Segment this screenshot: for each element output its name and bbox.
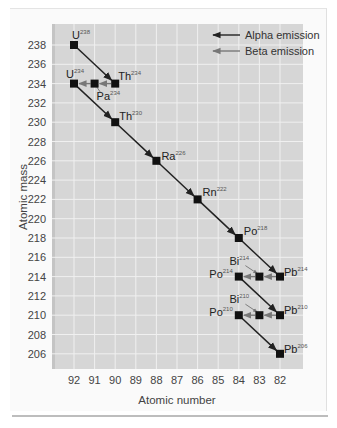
- y-tick-label: 226: [28, 155, 46, 167]
- y-tick-label: 210: [28, 309, 46, 321]
- legend-beta-label: Beta emission: [245, 45, 314, 57]
- x-axis-label: Atomic number: [138, 394, 216, 406]
- y-tick-label: 218: [28, 232, 46, 244]
- nuclide-label: Pb206: [284, 343, 308, 355]
- y-tick-label: 236: [28, 58, 46, 70]
- nuclide-marker: [276, 311, 284, 319]
- y-tick-label: 228: [28, 136, 46, 148]
- y-tick-label: 232: [28, 97, 46, 109]
- nuclide-marker: [91, 80, 99, 88]
- y-axis-ticks: 2382362342322302282262242222202182162142…: [28, 39, 46, 360]
- y-tick-label: 224: [28, 174, 46, 186]
- y-tick-label: 230: [28, 116, 46, 128]
- nuclide-label: Pb210: [284, 304, 308, 316]
- nuclide-marker: [255, 311, 263, 319]
- nuclide-marker: [235, 311, 243, 319]
- nuclide-marker: [194, 195, 202, 203]
- nuclide-marker: [235, 234, 243, 242]
- nuclide-marker: [111, 118, 119, 126]
- y-tick-label: 238: [28, 39, 46, 51]
- x-tick-label: 90: [109, 374, 121, 386]
- nuclide-label: Pb214: [284, 266, 308, 278]
- y-axis-label: Atomic mass: [17, 164, 29, 230]
- decay-chart: 2382362342322302282262242222202182162142…: [0, 0, 337, 428]
- x-tick-label: 91: [88, 374, 100, 386]
- nuclide-marker: [276, 350, 284, 358]
- x-tick-label: 85: [212, 374, 224, 386]
- y-tick-label: 220: [28, 213, 46, 225]
- y-tick-label: 222: [28, 193, 46, 205]
- x-tick-label: 84: [233, 374, 245, 386]
- nuclide-marker: [255, 273, 263, 281]
- y-tick-label: 216: [28, 251, 46, 263]
- nuclide-marker: [276, 273, 284, 281]
- nuclide-marker: [152, 157, 160, 165]
- x-tick-label: 82: [274, 374, 286, 386]
- x-tick-label: 88: [150, 374, 162, 386]
- plot-area-shadow: [52, 24, 55, 369]
- y-tick-label: 234: [28, 78, 46, 90]
- y-tick-label: 206: [28, 348, 46, 360]
- y-tick-label: 212: [28, 290, 46, 302]
- x-axis-ticks: 9291908988878685848382: [68, 374, 286, 386]
- x-tick-label: 92: [68, 374, 80, 386]
- nuclide-marker: [70, 41, 78, 49]
- nuclide-marker: [235, 273, 243, 281]
- x-tick-label: 86: [191, 374, 203, 386]
- legend-alpha-label: Alpha emission: [245, 29, 320, 41]
- x-tick-label: 83: [253, 374, 265, 386]
- y-tick-label: 208: [28, 329, 46, 341]
- x-tick-label: 87: [171, 374, 183, 386]
- nuclide-marker: [70, 80, 78, 88]
- x-tick-label: 89: [130, 374, 142, 386]
- y-tick-label: 214: [28, 271, 46, 283]
